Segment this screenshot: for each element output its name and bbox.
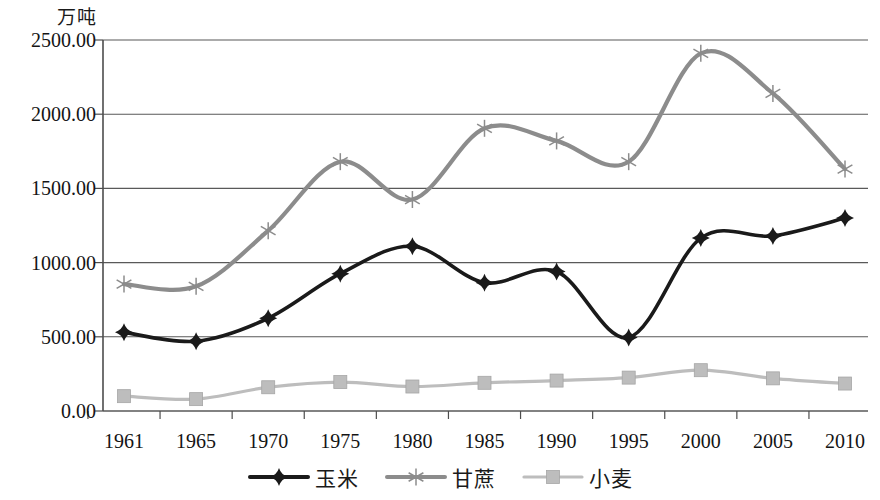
data-point-marker [693, 49, 700, 53]
data-point-marker [118, 390, 131, 403]
data-point-marker [331, 265, 349, 283]
data-point-marker [764, 227, 782, 245]
y-axis-tick-label: 1500.00 [4, 177, 96, 200]
data-point-marker [845, 165, 852, 169]
data-point-marker [334, 376, 347, 389]
y-axis-tick-label: 2500.00 [4, 29, 96, 52]
series-甘蔗 [117, 45, 853, 295]
y-axis-tick-label: 500.00 [4, 325, 96, 348]
data-point-marker [190, 393, 203, 406]
data-point-marker [766, 93, 773, 97]
series-玉米 [115, 209, 854, 350]
data-point-marker [261, 226, 268, 230]
data-point-marker [403, 237, 421, 255]
x-axis-tick-label: 1990 [537, 430, 577, 453]
x-axis-tick-label: 1980 [392, 430, 432, 453]
x-axis-tick-label: 2000 [681, 430, 721, 453]
data-point-marker [115, 323, 133, 341]
x-axis-tick-label: 1985 [465, 430, 505, 453]
data-point-marker [268, 231, 275, 235]
data-point-marker [117, 284, 124, 288]
data-point-marker [620, 329, 638, 347]
y-axis-tick-label: 2000.00 [4, 103, 96, 126]
data-point-marker [838, 169, 845, 173]
data-point-marker [550, 374, 563, 387]
data-point-marker [839, 377, 852, 390]
data-point-marker [406, 380, 419, 393]
y-axis-tick-label: 1000.00 [4, 251, 96, 274]
data-point-marker [478, 376, 491, 389]
legend-marker-icon [385, 466, 447, 488]
plot-area [0, 0, 880, 500]
series-line [124, 51, 845, 290]
data-point-marker [548, 263, 566, 281]
data-point-marker [621, 157, 628, 161]
x-axis-tick-label: 1961 [104, 430, 144, 453]
data-point-marker [845, 169, 852, 173]
data-point-marker [476, 274, 494, 292]
data-point-marker [622, 371, 635, 384]
data-point-marker [546, 471, 559, 484]
x-axis-tick-label: 1975 [320, 430, 360, 453]
y-axis-unit-label: 万吨 [57, 2, 97, 29]
y-axis-tick-label: 0.00 [4, 400, 96, 423]
legend-item[interactable]: 小麦 [522, 462, 633, 492]
legend-marker-icon [248, 466, 310, 488]
data-point-marker [773, 89, 780, 93]
chart-container: 万吨 0.00500.001000.001500.002000.002500.0… [0, 0, 880, 500]
data-point-marker [270, 468, 288, 486]
x-axis-tick-label: 1965 [176, 430, 216, 453]
data-point-marker [694, 364, 707, 377]
x-axis-tick-label: 1995 [609, 430, 649, 453]
data-point-marker [187, 332, 205, 350]
data-point-marker [262, 381, 275, 394]
legend-item[interactable]: 甘蔗 [385, 462, 496, 492]
legend-label: 甘蔗 [452, 462, 496, 492]
legend-marker-icon [522, 466, 584, 488]
legend-item[interactable]: 玉米 [248, 462, 359, 492]
data-point-marker [836, 209, 854, 227]
data-point-marker [629, 162, 636, 166]
chart-legend: 玉米甘蔗小麦 [0, 462, 880, 492]
x-axis-tick-label: 1970 [248, 430, 288, 453]
data-point-marker [766, 372, 779, 385]
legend-label: 玉米 [315, 462, 359, 492]
data-point-marker [259, 309, 277, 327]
series-小麦 [118, 364, 852, 406]
legend-label: 小麦 [589, 462, 633, 492]
x-axis-tick-label: 2010 [825, 430, 865, 453]
data-point-marker [477, 124, 484, 128]
x-axis-tick-label: 2005 [753, 430, 793, 453]
data-point-marker [117, 280, 124, 284]
